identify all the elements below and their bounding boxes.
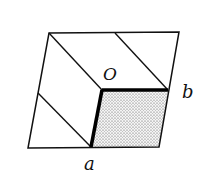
diagonal-top-left (49, 33, 102, 90)
diagonal-top-right (115, 33, 167, 89)
parallelogram-diagram: O b a (0, 0, 204, 179)
shaded-rhombus (91, 90, 168, 147)
label-a: a (84, 153, 95, 174)
label-origin: O (103, 64, 117, 84)
label-b: b (182, 81, 194, 102)
diagonal-bottom-left (38, 93, 91, 147)
